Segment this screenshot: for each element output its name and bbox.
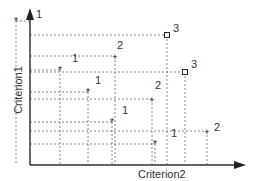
x-arrow-icon [234,161,246,169]
rank-label: 1 [72,53,78,64]
x-axis-title: Criterion2 [138,168,186,180]
star-marker-icon: * [86,87,90,98]
rank-label: 1 [36,9,42,20]
star-marker-icon: * [110,117,114,128]
rank-label: 1 [171,128,177,139]
y-arrow-icon [26,8,34,20]
plot-area: *+**+*+* [0,0,262,181]
rank-label: 1 [95,75,101,86]
plus-marker-icon: + [149,95,154,105]
rank-label: 2 [117,40,123,51]
plus-marker-icon: + [112,52,117,62]
star-marker-icon: * [58,65,62,76]
dashed-guides [16,21,207,165]
pareto-diagram: *+**+*+* 1321312121 Criterion2 Criterion… [0,0,262,181]
square-marker-icon [183,70,188,75]
square-marker-icon [165,33,170,38]
axes [26,8,246,169]
rank-label: 3 [191,59,197,70]
rank-label: 1 [122,105,128,116]
markers: *+**+*+* [14,16,210,150]
plus-marker-icon: + [204,127,209,137]
rank-label: 2 [155,80,161,91]
rank-label: 3 [173,23,179,34]
rank-label: 2 [214,122,220,133]
star-marker-icon: * [14,16,18,27]
star-marker-icon: * [153,139,157,150]
y-axis-title: Criterion1 [12,60,24,120]
